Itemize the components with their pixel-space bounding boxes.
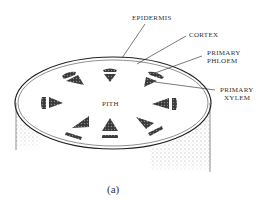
label-epidermis: EPIDERMIS	[132, 14, 172, 22]
cortex-leader	[137, 36, 186, 64]
label-cortex: CORTEX	[189, 31, 218, 39]
label-primary-phloem-line2: PHLOEM	[207, 57, 238, 65]
stem-cross-section-diagram	[0, 0, 267, 216]
label-primary-phloem-line1: PRIMARY	[207, 49, 241, 57]
label-primary-xylem-line2: XYLEM	[224, 94, 250, 102]
epidermis-leader	[122, 24, 145, 58]
label-pith: PITH	[102, 100, 119, 108]
figure-caption: (a)	[107, 183, 119, 195]
label-primary-xylem-line1: PRIMARY	[220, 86, 254, 94]
